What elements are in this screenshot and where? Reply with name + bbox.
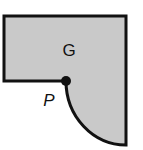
- point-label-p: P: [43, 91, 55, 110]
- region-label-g: G: [62, 41, 75, 60]
- point-p-dot: [61, 76, 71, 86]
- region-diagram: G P: [0, 0, 143, 150]
